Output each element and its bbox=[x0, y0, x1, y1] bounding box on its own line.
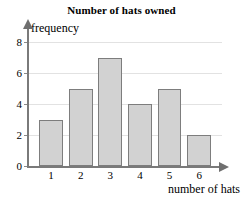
chart-title: Number of hats owned bbox=[0, 4, 243, 16]
y-tick-label: 0 bbox=[17, 161, 23, 172]
bar bbox=[39, 120, 63, 167]
x-axis-title: number of hats bbox=[168, 182, 240, 197]
bar-chart-figure: Number of hats owned frequency number of… bbox=[0, 0, 243, 202]
y-axis-arrow-icon bbox=[23, 19, 33, 29]
bar bbox=[98, 58, 122, 167]
bar bbox=[158, 89, 182, 167]
x-tick-label: 6 bbox=[196, 170, 202, 181]
y-axis-title: frequency bbox=[31, 21, 79, 36]
x-tick-label: 4 bbox=[137, 170, 143, 181]
gridline bbox=[28, 104, 222, 105]
bar bbox=[187, 135, 211, 166]
y-axis-line bbox=[27, 28, 29, 168]
bar bbox=[128, 104, 152, 166]
gridline bbox=[28, 42, 222, 43]
x-axis-line bbox=[27, 166, 221, 168]
y-tick-label: 6 bbox=[17, 68, 23, 79]
y-tick-label: 8 bbox=[17, 37, 23, 48]
x-tick-label: 1 bbox=[48, 170, 54, 181]
plot-area: 02468 bbox=[28, 42, 222, 166]
y-tick-label: 2 bbox=[17, 130, 23, 141]
x-tick-label: 5 bbox=[167, 170, 173, 181]
gridline bbox=[28, 73, 222, 74]
x-axis-arrow-icon bbox=[219, 162, 229, 172]
y-tick-label: 4 bbox=[17, 99, 23, 110]
bar bbox=[69, 89, 93, 167]
x-tick-label: 2 bbox=[78, 170, 84, 181]
x-tick-label: 3 bbox=[108, 170, 114, 181]
